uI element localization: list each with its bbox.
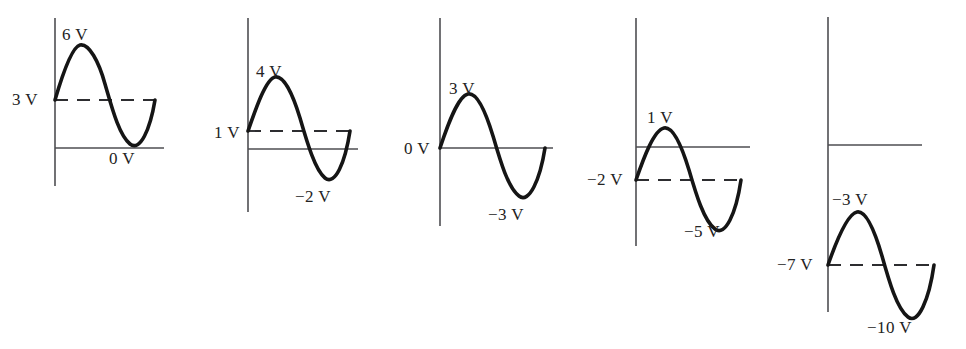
panel-4-offset-label: −2 V: [587, 171, 623, 188]
panel-1-peak-label: 6 V: [62, 26, 88, 43]
waveform-canvas: [0, 0, 966, 349]
panel-1-waveform: [55, 45, 155, 146]
panel-5-graph: [828, 17, 938, 318]
panel-5-offset-label: −7 V: [777, 256, 813, 273]
panel-2-trough-label: −2 V: [295, 188, 331, 205]
panel-2-graph: [248, 18, 358, 212]
panel-3-waveform: [440, 94, 545, 198]
panel-3-peak-label: 3 V: [449, 80, 475, 97]
panel-4-peak-label: 1 V: [647, 109, 673, 126]
panel-3-trough-label: −3 V: [488, 206, 524, 223]
panel-2-offset-label: 1 V: [214, 124, 240, 141]
panel-2-waveform: [248, 77, 350, 180]
panel-5-trough-label: −10 V: [867, 319, 912, 336]
panel-4-trough-label: −5 V: [684, 223, 720, 240]
panel-4-graph: [636, 18, 750, 246]
panel-3-offset-label: 0 V: [404, 140, 430, 157]
panel-1-offset-label: 3 V: [12, 91, 38, 108]
panel-5-peak-label: −3 V: [832, 191, 868, 208]
panel-1-trough-label: 0 V: [109, 150, 135, 167]
panel-3-graph: [440, 18, 553, 226]
panel-2-peak-label: 4 V: [256, 63, 282, 80]
waveform-figure: 6 V 3 V 0 V 4 V 1 V −2 V 3 V 0 V −3 V 1 …: [0, 0, 966, 349]
